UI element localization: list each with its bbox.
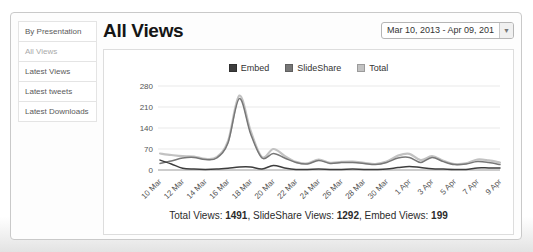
legend-item-embed: Embed	[229, 63, 270, 73]
svg-text:0: 0	[149, 166, 154, 175]
legend-label: Embed	[241, 63, 270, 73]
slideshare-views-label: , SlideShare Views:	[247, 210, 336, 221]
chart-card: Embed SlideShare Total 07014021028010 Ma…	[103, 49, 514, 235]
svg-text:18 Mar: 18 Mar	[230, 177, 254, 201]
chart-area: 07014021028010 Mar12 Mar14 Mar16 Mar18 M…	[104, 78, 513, 206]
svg-text:5 Apr: 5 Apr	[439, 177, 459, 197]
embed-views-value: 199	[431, 210, 448, 221]
chevron-down-icon: ▼	[499, 23, 513, 38]
chart-legend: Embed SlideShare Total	[104, 63, 513, 73]
sidebar-item-by-presentation[interactable]: By Presentation	[18, 21, 97, 42]
svg-text:14 Mar: 14 Mar	[185, 177, 209, 201]
page-title: All Views	[103, 21, 183, 41]
svg-text:26 Mar: 26 Mar	[321, 177, 345, 201]
svg-text:70: 70	[144, 145, 153, 154]
sidebar-item-latest-views[interactable]: Latest Views	[18, 61, 97, 82]
svg-text:20 Mar: 20 Mar	[253, 177, 277, 201]
total-views-label: Total Views:	[169, 210, 225, 221]
svg-text:1 Apr: 1 Apr	[393, 177, 413, 197]
total-views-value: 1491	[225, 210, 247, 221]
views-chart: 07014021028010 Mar12 Mar14 Mar16 Mar18 M…	[104, 78, 508, 206]
svg-text:10 Mar: 10 Mar	[139, 177, 163, 201]
svg-text:12 Mar: 12 Mar	[162, 177, 186, 201]
embed-views-label: , Embed Views:	[359, 210, 431, 221]
svg-text:22 Mar: 22 Mar	[275, 177, 299, 201]
svg-text:3 Apr: 3 Apr	[416, 177, 436, 197]
svg-text:28 Mar: 28 Mar	[343, 177, 367, 201]
svg-text:9 Apr: 9 Apr	[484, 177, 504, 197]
slideshare-swatch-icon	[285, 64, 293, 72]
legend-item-total: Total	[357, 63, 388, 73]
main-content: All Views Mar 10, 2013 - Apr 09, 201 ▼ E…	[103, 21, 514, 231]
title-row: All Views Mar 10, 2013 - Apr 09, 201 ▼	[103, 21, 514, 48]
svg-text:7 Apr: 7 Apr	[461, 177, 481, 197]
svg-text:140: 140	[140, 124, 154, 133]
totals-summary: Total Views: 1491, SlideShare Views: 129…	[104, 210, 513, 221]
slideshare-views-value: 1292	[337, 210, 359, 221]
sidebar-item-all-views[interactable]: All Views	[18, 41, 97, 62]
sidebar-item-latest-downloads[interactable]: Latest Downloads	[18, 101, 97, 122]
legend-item-slideshare: SlideShare	[285, 63, 341, 73]
svg-text:280: 280	[140, 82, 154, 91]
sidebar-item-latest-tweets[interactable]: Latest tweets	[18, 81, 97, 102]
analytics-panel: By Presentation All Views Latest Views L…	[10, 12, 522, 240]
legend-label: SlideShare	[297, 63, 341, 73]
legend-label: Total	[369, 63, 388, 73]
svg-text:16 Mar: 16 Mar	[207, 177, 231, 201]
total-swatch-icon	[357, 64, 365, 72]
date-range-select[interactable]: Mar 10, 2013 - Apr 09, 201 ▼	[381, 22, 514, 39]
svg-text:210: 210	[140, 103, 154, 112]
embed-swatch-icon	[229, 64, 237, 72]
svg-text:30 Mar: 30 Mar	[366, 177, 390, 201]
date-range-label: Mar 10, 2013 - Apr 09, 201	[382, 23, 499, 38]
sidebar: By Presentation All Views Latest Views L…	[18, 21, 97, 231]
svg-text:24 Mar: 24 Mar	[298, 177, 322, 201]
